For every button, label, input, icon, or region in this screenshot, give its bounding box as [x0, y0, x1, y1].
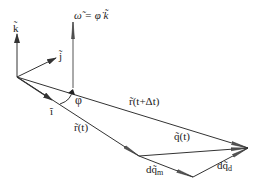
q-t-vector	[139, 148, 248, 156]
q-t-label: q̃(t)	[174, 130, 190, 143]
r-t-dt-label: r̃(t+Δt)	[129, 95, 160, 108]
phi-label: φ	[75, 93, 82, 107]
omega-label: ω̃ = φ̇ k̃	[74, 9, 110, 21]
j-axis	[17, 58, 56, 77]
dq-d-label: dq̃d	[217, 159, 232, 173]
vector-diagram: k̃ j̃ ĩ ω̃ = φ̇ k̃ φ r̃(t) r̃(t+Δt) q̃(…	[0, 0, 262, 188]
r-t-label: r̃(t)	[74, 121, 88, 134]
j-label: j̃	[58, 50, 63, 62]
r-t-vector	[17, 77, 139, 156]
i-label: ĩ	[49, 105, 54, 117]
k-label: k̃	[13, 21, 19, 34]
